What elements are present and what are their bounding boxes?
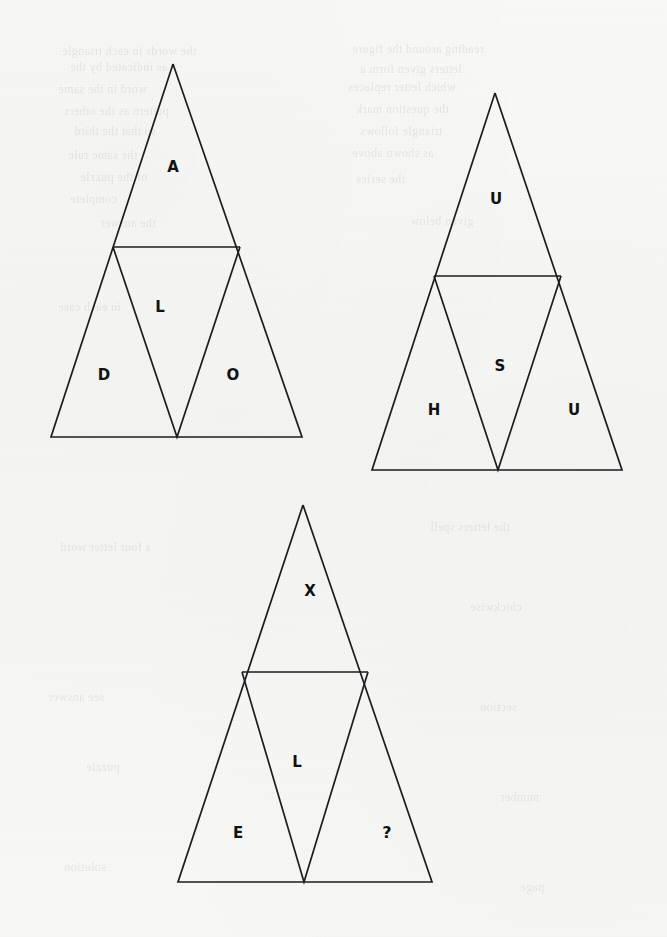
cell-letter-f2-top: U — [490, 192, 502, 207]
inverted-inner-triangle — [113, 247, 240, 437]
cell-letter-f2-center: S — [495, 359, 506, 374]
triangle-figure-1 — [51, 64, 302, 437]
outer-triangle-outline — [178, 505, 432, 882]
cell-letter-f1-right: O — [227, 368, 240, 383]
cell-letter-f3-center: L — [292, 755, 302, 770]
outer-triangle-outline — [372, 93, 622, 470]
cell-letter-f1-center: L — [155, 300, 165, 315]
triangle-figure-3 — [178, 505, 432, 882]
cell-letter-f3-left: E — [233, 826, 243, 841]
triangle-figures-canvas — [0, 0, 667, 937]
cell-letter-f2-left: H — [428, 403, 441, 418]
cell-letter-f1-top: A — [167, 160, 179, 175]
triangle-figure-2 — [372, 93, 622, 470]
cell-letter-f1-left: D — [98, 368, 110, 383]
outer-triangle-outline — [51, 64, 302, 437]
cell-letter-f2-right: U — [568, 403, 580, 418]
cell-letter-f3-top: X — [304, 584, 316, 599]
puzzle-page: the words in each trianglereading around… — [0, 0, 667, 937]
missing-letter-placeholder: ? — [382, 825, 391, 841]
inverted-inner-triangle — [242, 672, 368, 882]
